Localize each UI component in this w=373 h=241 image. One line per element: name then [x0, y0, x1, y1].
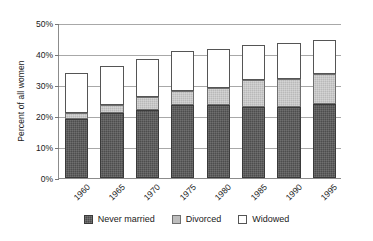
stacked-bar-chart: Percent of all women 0%10%20%30%40%50% 1…: [0, 0, 373, 241]
bar-group: [136, 59, 159, 178]
y-tick-label: 40%: [0, 50, 53, 60]
bar-segment-never-married: [136, 110, 159, 178]
bar-segment-never-married: [242, 107, 265, 178]
bar-segment-never-married: [277, 107, 300, 178]
x-tick-label: 1985: [248, 182, 268, 202]
legend-item: Divorced: [172, 214, 222, 224]
bar-group: [100, 66, 123, 178]
gray-swatch: [172, 215, 181, 224]
x-tick-label: 1975: [177, 182, 197, 202]
bar-segment-divorced: [136, 97, 159, 109]
legend-item-label: Widowed: [252, 214, 289, 224]
plot-area: [58, 24, 341, 179]
y-axis-tick-labels: 0%10%20%30%40%50%: [0, 24, 53, 179]
legend-item-label: Never married: [98, 214, 155, 224]
y-gridline: [59, 24, 341, 25]
bar-segment-never-married: [100, 113, 123, 178]
bar-segment-widowed: [65, 73, 88, 113]
x-tick-label: 1995: [319, 182, 339, 202]
y-tick-label: 50%: [0, 19, 53, 29]
y-tick-label: 20%: [0, 112, 53, 122]
x-tick-label: 1980: [213, 182, 233, 202]
bar-group: [207, 49, 230, 178]
x-tick-label: 1970: [142, 182, 162, 202]
white-swatch: [238, 215, 247, 224]
bar-segment-widowed: [136, 59, 159, 98]
legend-item: Never married: [84, 214, 155, 224]
bar-segment-never-married: [171, 105, 194, 178]
bar-segment-widowed: [207, 49, 230, 88]
bar-segment-never-married: [207, 105, 230, 178]
y-tick-mark: [55, 55, 59, 56]
y-tick-label: 30%: [0, 81, 53, 91]
bar-segment-widowed: [242, 45, 265, 81]
legend-item: Widowed: [238, 214, 289, 224]
bar-group: [171, 51, 194, 178]
bar-segment-widowed: [277, 43, 300, 79]
x-tick-label: 1990: [284, 182, 304, 202]
bar-group: [65, 73, 88, 178]
bar-group: [313, 40, 336, 178]
y-tick-mark: [55, 86, 59, 87]
x-tick-label: 1965: [107, 182, 127, 202]
bar-segment-divorced: [171, 91, 194, 105]
legend-item-label: Divorced: [186, 214, 222, 224]
chart-legend: Never marriedDivorcedWidowed: [0, 214, 373, 224]
bar-segment-divorced: [100, 105, 123, 113]
bar-group: [242, 45, 265, 178]
bar-segment-widowed: [313, 40, 336, 74]
bar-segment-widowed: [171, 51, 194, 91]
x-axis-tick-labels: 19601965197019751980198519901995: [58, 179, 341, 213]
bar-segment-divorced: [242, 80, 265, 106]
y-tick-label: 0%: [0, 174, 53, 184]
bar-segment-divorced: [207, 88, 230, 105]
bar-segment-divorced: [277, 79, 300, 107]
dark-textured-swatch: [84, 215, 93, 224]
y-tick-label: 10%: [0, 143, 53, 153]
y-tick-mark: [55, 24, 59, 25]
bar-segment-never-married: [313, 104, 336, 178]
x-tick-label: 1960: [71, 182, 91, 202]
bar-segment-never-married: [65, 119, 88, 178]
y-tick-mark: [55, 148, 59, 149]
bar-segment-widowed: [100, 66, 123, 105]
bar-group: [277, 43, 300, 178]
bar-segment-divorced: [313, 74, 336, 103]
y-tick-mark: [55, 117, 59, 118]
